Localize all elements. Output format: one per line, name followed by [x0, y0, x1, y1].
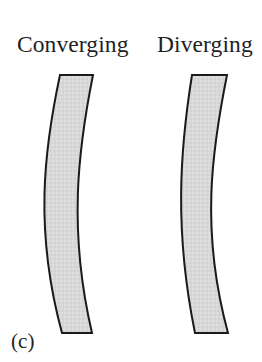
converging-lens-shape	[44, 75, 93, 333]
figure-canvas: Converging Diverging (c)	[0, 0, 262, 362]
panel-label: (c)	[11, 331, 35, 352]
lens-diagram	[0, 0, 262, 362]
diverging-lens-shape	[181, 75, 228, 333]
